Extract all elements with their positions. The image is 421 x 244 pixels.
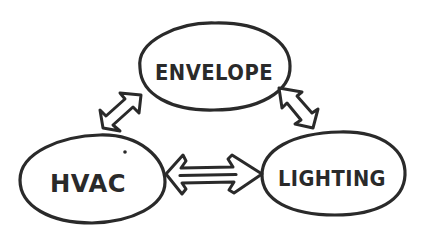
envelope-label: ENVELOPE [155,60,273,85]
arrow-envelope-lighting [279,88,318,128]
node-envelope: ENVELOPE [140,23,290,110]
arrow-shaft-divider [180,175,236,176]
building-systems-diagram: ENVELOPE HVAC LIGHTING [0,0,421,244]
arrow-hvac-lighting [166,155,262,194]
node-hvac: HVAC [20,135,165,223]
double-arrow-icon [100,93,141,131]
ink-dot [123,150,127,154]
arrow-envelope-hvac [100,93,141,131]
double-arrow-icon [279,88,318,128]
hvac-label: HVAC [50,170,126,198]
node-lighting: LIGHTING [262,132,405,215]
lighting-label: LIGHTING [278,166,386,191]
